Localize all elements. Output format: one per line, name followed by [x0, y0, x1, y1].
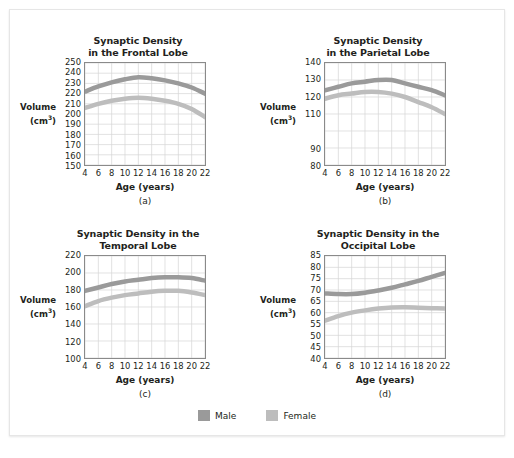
x-tick-label: 16: [160, 362, 171, 370]
y-tick-label: 40: [310, 355, 321, 363]
x-tick-label: 12: [133, 169, 144, 177]
y-tick-label: 45: [310, 343, 321, 351]
chart-panel-d: Synaptic Density in the Occipital LobeVo…: [268, 228, 488, 399]
y-axis-units-c: (cm3): [30, 306, 56, 319]
x-tick-label: 20: [426, 169, 437, 177]
y-axis-ticks-d: 40455055606570758085: [299, 255, 321, 359]
y-tick-label: 210: [65, 99, 81, 107]
y-tick-label: 50: [310, 332, 321, 340]
x-tick-label: 14: [146, 362, 157, 370]
chart-title-c: Synaptic Density in the Temporal Lobe: [28, 228, 248, 251]
x-tick-label: 18: [173, 169, 184, 177]
y-tick-label: 220: [65, 89, 81, 97]
y-axis-label-text-d: Volume: [260, 295, 296, 306]
plot-area-b: [324, 62, 446, 166]
panel-letter-c: (c): [84, 389, 206, 399]
chart-title-b: Synaptic Density in the Parietal Lobe: [268, 35, 488, 58]
y-tick-label: 220: [65, 251, 81, 259]
panel-letter-b: (b): [324, 196, 446, 206]
legend-swatch-icon: [266, 410, 278, 421]
x-tick-label: 6: [336, 362, 341, 370]
plot-row-c: Volume(cm3)10012014016018020022046810121…: [28, 255, 248, 359]
x-tick-label: 12: [373, 169, 384, 177]
y-tick-label: 160: [65, 151, 81, 159]
x-tick-label: 10: [120, 169, 131, 177]
y-tick-label: 90: [310, 144, 321, 152]
chart-panel-c: Synaptic Density in the Temporal LobeVol…: [28, 228, 248, 399]
y-tick-label: 180: [65, 131, 81, 139]
legend-swatch-icon: [198, 410, 210, 421]
chart-title-a: Synaptic Density in the Frontal Lobe: [28, 35, 248, 58]
x-tick-label: 6: [96, 362, 101, 370]
figure-card: Synaptic Density in the Frontal LobeVolu…: [9, 9, 505, 436]
x-tick-label: 14: [386, 169, 397, 177]
x-tick-label: 22: [440, 362, 451, 370]
x-tick-label: 8: [349, 362, 354, 370]
x-tick-label: 4: [82, 362, 87, 370]
y-tick-label: 60: [310, 309, 321, 317]
y-tick-label: 190: [65, 120, 81, 128]
x-tick-label: 18: [173, 362, 184, 370]
legend-item-male: Male: [198, 410, 236, 421]
x-tick-label: 10: [360, 362, 371, 370]
x-tick-label: 16: [160, 169, 171, 177]
y-axis-label-c: Volume(cm3): [28, 255, 56, 359]
y-tick-label: 55: [310, 320, 321, 328]
y-axis-ticks-a: 150160170180190200210220230240250: [59, 62, 81, 166]
x-tick-label: 16: [400, 169, 411, 177]
y-axis-units-d: (cm3): [270, 306, 296, 319]
y-axis-units-b: (cm3): [270, 113, 296, 126]
x-tick-label: 22: [200, 169, 211, 177]
y-axis-label-d: Volume(cm3): [268, 255, 296, 359]
y-axis-label-a: Volume(cm3): [28, 62, 56, 166]
x-tick-label: 16: [400, 362, 411, 370]
x-tick-label: 22: [440, 169, 451, 177]
x-axis-ticks-d: 46810121416182022: [325, 362, 445, 374]
y-tick-label: 80: [310, 162, 321, 170]
x-tick-label: 20: [426, 362, 437, 370]
y-tick-label: 150: [65, 162, 81, 170]
x-tick-label: 6: [96, 169, 101, 177]
y-tick-label: 140: [305, 58, 321, 66]
x-axis-ticks-c: 46810121416182022: [85, 362, 205, 374]
y-tick-label: 70: [310, 285, 321, 293]
plot-row-b: Volume(cm3)80901101201301404681012141618…: [268, 62, 488, 166]
chart-panel-b: Synaptic Density in the Parietal LobeVol…: [268, 35, 488, 206]
chart-panel-a: Synaptic Density in the Frontal LobeVolu…: [28, 35, 248, 206]
x-tick-label: 14: [386, 362, 397, 370]
x-tick-label: 4: [322, 362, 327, 370]
y-tick-label: 65: [310, 297, 321, 305]
chart-title-d: Synaptic Density in the Occipital Lobe: [268, 228, 488, 251]
x-axis-ticks-a: 46810121416182022: [85, 169, 205, 181]
y-axis-label-b: Volume(cm3): [268, 62, 296, 166]
y-tick-label: 200: [65, 268, 81, 276]
legend-label: Female: [283, 411, 316, 421]
y-tick-label: 180: [65, 285, 81, 293]
x-axis-label-b: Age (years): [324, 182, 446, 192]
x-tick-label: 18: [413, 169, 424, 177]
y-axis-label-text-b: Volume: [260, 102, 296, 113]
y-tick-label: 85: [310, 251, 321, 259]
x-axis-label-a: Age (years): [84, 182, 206, 192]
y-tick-label: 100: [65, 355, 81, 363]
x-tick-label: 20: [186, 169, 197, 177]
x-tick-label: 14: [146, 169, 157, 177]
plot-area-c: [84, 255, 206, 359]
y-tick-label: 75: [310, 274, 321, 282]
plot-area-d: [324, 255, 446, 359]
y-tick-label: 160: [65, 303, 81, 311]
y-tick-label: 200: [65, 110, 81, 118]
y-tick-label: 120: [305, 92, 321, 100]
x-tick-label: 20: [186, 362, 197, 370]
figure-legend: MaleFemale: [10, 410, 504, 421]
x-tick-label: 12: [133, 362, 144, 370]
y-axis-units-a: (cm3): [30, 113, 56, 126]
chart-grid: Synaptic Density in the Frontal LobeVolu…: [10, 10, 504, 435]
x-tick-label: 8: [109, 169, 114, 177]
panel-letter-d: (d): [324, 389, 446, 399]
plot-row-d: Volume(cm3)40455055606570758085468101214…: [268, 255, 488, 359]
legend-label: Male: [215, 411, 236, 421]
x-axis-label-d: Age (years): [324, 375, 446, 385]
y-axis-ticks-b: 8090110120130140: [299, 62, 321, 166]
x-tick-label: 4: [322, 169, 327, 177]
